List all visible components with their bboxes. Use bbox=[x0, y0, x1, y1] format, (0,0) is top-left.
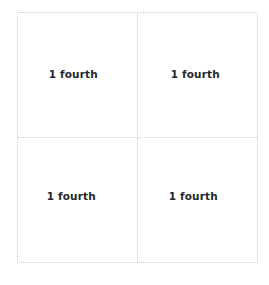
quadrant-bottom-left: 1 fourth bbox=[18, 138, 138, 263]
quadrant-bottom-left-label: 1 fourth bbox=[47, 190, 96, 202]
quadrant-bottom-right: 1 fourth bbox=[138, 138, 258, 263]
quadrant-top-left: 1 fourth bbox=[18, 13, 138, 138]
quadrant-bottom-right-label: 1 fourth bbox=[169, 190, 218, 202]
quadrant-top-left-label: 1 fourth bbox=[49, 68, 98, 80]
quadrant-top-right-label: 1 fourth bbox=[171, 68, 220, 80]
quadrant-top-right: 1 fourth bbox=[138, 13, 258, 138]
fraction-square-figure: 1 fourth 1 fourth 1 fourth 1 fourth bbox=[17, 12, 258, 263]
